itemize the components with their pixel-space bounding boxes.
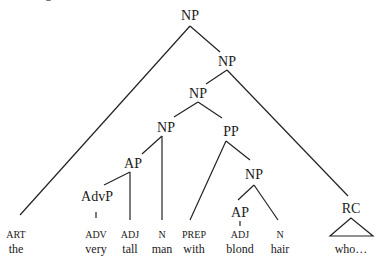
node-advp: AdvP (81, 190, 113, 204)
leaf-word: blond (226, 243, 253, 255)
node-np-4: NP (157, 121, 175, 135)
node-np-right: NP (245, 168, 263, 182)
leaf-category: ADJ (231, 230, 249, 240)
leaf-category: ART (6, 230, 25, 240)
tree-branches (0, 0, 384, 260)
leaf-category: N (276, 230, 283, 240)
node-pp: PP (223, 125, 239, 139)
leaf-word: hair (271, 243, 290, 255)
leaf-word: the (9, 243, 24, 255)
leaf-word: with (183, 243, 204, 255)
leaf-word: very (85, 243, 106, 255)
node-np-3: NP (189, 87, 207, 101)
node-rc: RC (342, 202, 361, 216)
syntax-tree-diagram: NP NP NP NP PP AP AdvP NP AP RC ART the … (0, 0, 384, 260)
node-ap-upper: AP (124, 157, 142, 171)
leaf-word: tall (122, 243, 137, 255)
cropped-glyph-fragment (46, 0, 51, 1)
leaf-word: who… (335, 243, 368, 255)
node-ap-lower: AP (231, 206, 249, 220)
leaf-category: ADJ (121, 230, 139, 240)
node-np-2: NP (218, 55, 236, 69)
leaf-category: N (158, 230, 165, 240)
node-np-root: NP (181, 9, 199, 23)
leaf-category: PREP (182, 230, 206, 240)
leaf-word: man (152, 243, 173, 255)
leaf-category: ADV (85, 230, 107, 240)
